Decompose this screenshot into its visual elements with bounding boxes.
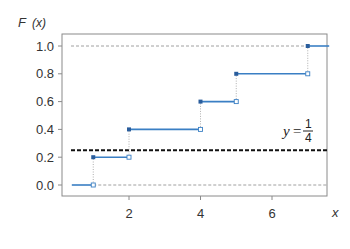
svg-text:1: 1 [305,117,312,131]
open-point [199,127,203,131]
cdf-steps [72,44,329,187]
y-tick-label: 0.2 [36,150,54,165]
closed-point [199,100,203,104]
x-tick-label: 2 [125,206,132,221]
x-axis-title: x [331,205,339,220]
x-axis-ticks: 246 [125,196,275,221]
closed-point [127,127,131,131]
y-tick-label: 0.4 [36,122,54,137]
plot-frame [62,34,327,196]
y-axis-ticks: 0.00.20.40.60.81.0 [36,39,62,193]
x-tick-label: 6 [268,206,275,221]
open-point [91,183,95,187]
y-axis-title: F(x) [18,15,46,30]
y-tick-label: 0.0 [36,178,54,193]
reference-lines [71,46,327,185]
x-tick-label: 4 [197,206,204,221]
y-tick-label: 0.6 [36,94,54,109]
cdf-step-chart: F(x) x 0.00.20.40.60.81.0 246 y = 1 4 [0,0,350,249]
svg-text:4: 4 [305,131,312,145]
svg-text:=: = [292,123,302,139]
open-point [127,155,131,159]
y-tick-label: 1.0 [36,39,54,54]
annotation-y-quarter: y = 1 4 [281,117,313,145]
open-point [234,100,238,104]
y-tick-label: 0.8 [36,66,54,81]
open-point [306,72,310,76]
closed-point [306,44,310,48]
svg-text:y: y [281,123,290,139]
closed-point [91,155,95,159]
closed-point [234,72,238,76]
